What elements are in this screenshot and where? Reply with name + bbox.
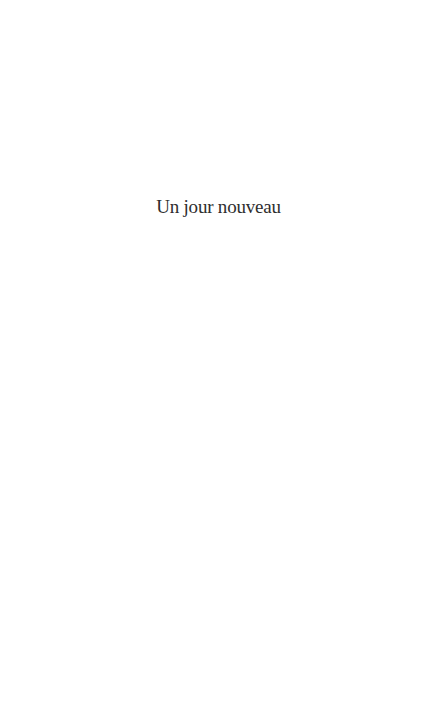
book-page: Un jour nouveau — [0, 0, 441, 720]
half-title: Un jour nouveau — [0, 195, 437, 219]
